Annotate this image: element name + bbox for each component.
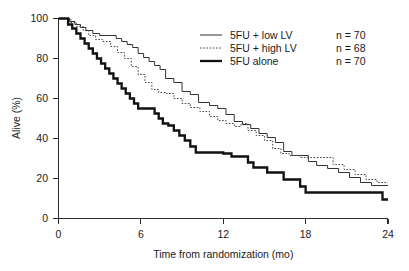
x-tick-label-18: 18 xyxy=(300,228,312,240)
x-tick-label-12: 12 xyxy=(217,228,229,240)
y-axis-tick-labels: 0 20 40 60 80 100 xyxy=(30,12,48,224)
y-tick-label-60: 60 xyxy=(36,92,48,104)
legend-count-1: n = 68 xyxy=(336,42,366,54)
y-tick-label-100: 100 xyxy=(30,12,48,24)
x-tick-label-0: 0 xyxy=(56,228,62,240)
x-axis-tick-labels: 0 6 12 18 24 xyxy=(56,228,394,240)
y-tick-label-0: 0 xyxy=(42,212,48,224)
legend-count-2: n = 70 xyxy=(336,55,366,67)
x-tick-label-6: 6 xyxy=(138,228,144,240)
chart-canvas: 0 20 40 60 80 100 0 6 12 18 24 Time from… xyxy=(0,0,409,271)
y-tick-label-20: 20 xyxy=(36,172,48,184)
y-tick-label-40: 40 xyxy=(36,132,48,144)
legend-label-1: 5FU + high LV xyxy=(230,42,297,54)
survival-chart-figure: 0 20 40 60 80 100 0 6 12 18 24 Time from… xyxy=(0,0,409,271)
y-axis-title: Alive (%) xyxy=(10,97,22,139)
legend-label-2: 5FU alone xyxy=(230,55,279,67)
y-axis-ticks xyxy=(53,19,59,219)
x-axis-ticks xyxy=(59,219,389,225)
chart-legend: 5FU + low LV n = 70 5FU + high LV n = 68… xyxy=(200,29,366,67)
legend-label-0: 5FU + low LV xyxy=(230,29,293,41)
x-tick-label-24: 24 xyxy=(382,228,394,240)
y-tick-label-80: 80 xyxy=(36,52,48,64)
legend-count-0: n = 70 xyxy=(336,29,366,41)
x-axis-title: Time from randomization (mo) xyxy=(153,248,293,260)
